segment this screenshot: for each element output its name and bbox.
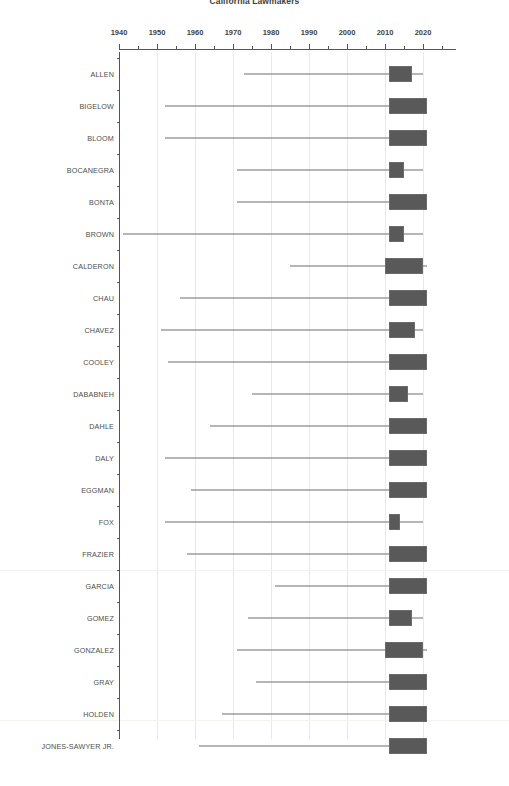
row-label: FOX <box>99 518 114 527</box>
box <box>389 354 427 370</box>
box-row: HOLDEN <box>0 698 509 730</box>
box-row: DALY <box>0 442 509 474</box>
box-row: BOCANEGRA <box>0 154 509 186</box>
whisker-high <box>415 330 423 331</box>
y-tick <box>117 666 120 667</box>
box-row: ALLEN <box>0 58 509 90</box>
whisker-low <box>123 234 389 235</box>
box-row: GONZALEZ <box>0 634 509 666</box>
x-tick-label: 2000 <box>339 28 356 37</box>
y-tick <box>117 218 120 219</box>
box <box>385 258 423 274</box>
x-tick-label: 1940 <box>111 28 128 37</box>
whisker-low <box>161 330 389 331</box>
whisker-low <box>244 74 388 75</box>
box <box>389 130 427 146</box>
x-tick-minor-1965 <box>214 46 215 50</box>
box-row: EGGMAN <box>0 474 509 506</box>
box <box>389 706 427 722</box>
whisker-low <box>165 106 389 107</box>
box-row: FOX <box>0 506 509 538</box>
row-label: GONZALEZ <box>74 646 114 655</box>
x-tick-1980 <box>271 44 272 50</box>
row-label: BOCANEGRA <box>67 166 114 175</box>
row-label: FRAZIER <box>82 550 114 559</box>
y-tick <box>117 90 120 91</box>
box <box>389 322 416 338</box>
y-tick <box>117 186 120 187</box>
row-label: BONTA <box>89 198 114 207</box>
y-tick <box>117 698 120 699</box>
whisker-low <box>252 394 389 395</box>
whisker-high <box>412 74 423 75</box>
x-axis: 194019501960197019801990200020102020 <box>0 28 509 52</box>
whisker-low <box>237 170 389 171</box>
whisker-low <box>237 202 389 203</box>
row-label: GARCIA <box>86 582 114 591</box>
whisker-low <box>187 554 388 555</box>
x-tick-1950 <box>157 44 158 50</box>
whisker-high <box>408 394 423 395</box>
y-tick <box>117 58 120 59</box>
whisker-low <box>199 746 389 747</box>
row-label: BROWN <box>86 230 114 239</box>
box-row: DABABNEH <box>0 378 509 410</box>
x-tick-minor-1975 <box>252 46 253 50</box>
box-row: CHAVEZ <box>0 314 509 346</box>
x-tick-minor-1995 <box>328 46 329 50</box>
box <box>389 482 427 498</box>
y-tick <box>117 282 120 283</box>
whisker-low <box>168 362 388 363</box>
box <box>389 514 400 530</box>
row-label: DALY <box>95 454 114 463</box>
box <box>389 546 427 562</box>
whisker-high <box>404 234 423 235</box>
row-label: CALDERON <box>73 262 114 271</box>
box-row: BIGELOW <box>0 90 509 122</box>
box-row: DAHLE <box>0 410 509 442</box>
x-tick-label: 1990 <box>301 28 318 37</box>
whisker-low <box>210 426 389 427</box>
box <box>389 66 412 82</box>
x-tick-label: 1980 <box>263 28 280 37</box>
whisker-low <box>165 458 389 459</box>
whisker-high <box>412 618 423 619</box>
y-tick <box>117 410 120 411</box>
y-tick <box>117 442 120 443</box>
row-label: HOLDEN <box>83 710 114 719</box>
box-row: GARCIA <box>0 570 509 602</box>
row-label: GRAY <box>94 678 114 687</box>
whisker-low <box>237 650 385 651</box>
box <box>389 418 427 434</box>
y-tick <box>117 602 120 603</box>
x-tick-label: 1950 <box>149 28 166 37</box>
box-row: COOLEY <box>0 346 509 378</box>
box <box>389 610 412 626</box>
y-tick <box>117 122 120 123</box>
y-tick <box>117 154 120 155</box>
x-tick-minor-1985 <box>290 46 291 50</box>
x-tick-1960 <box>195 44 196 50</box>
chart-title: California Lawmakers <box>0 0 509 6</box>
box-row: BLOOM <box>0 122 509 154</box>
box <box>389 738 427 754</box>
box-row: BONTA <box>0 186 509 218</box>
row-label: DABABNEH <box>73 390 114 399</box>
box-row: CHAU <box>0 282 509 314</box>
box <box>389 450 427 466</box>
box-row: GOMEZ <box>0 602 509 634</box>
whisker-low <box>248 618 389 619</box>
row-label: BLOOM <box>87 134 114 143</box>
whisker-low <box>222 714 389 715</box>
y-tick <box>117 346 120 347</box>
box <box>385 642 423 658</box>
whisker-high <box>423 650 427 651</box>
x-tick-label: 2010 <box>377 28 394 37</box>
row-label: BIGELOW <box>79 102 114 111</box>
row-label: JONES-SAWYER JR. <box>42 742 114 751</box>
x-tick-minor-1945 <box>138 46 139 50</box>
y-tick <box>117 474 120 475</box>
box <box>389 578 427 594</box>
y-tick <box>117 506 120 507</box>
box-row: GRAY <box>0 666 509 698</box>
